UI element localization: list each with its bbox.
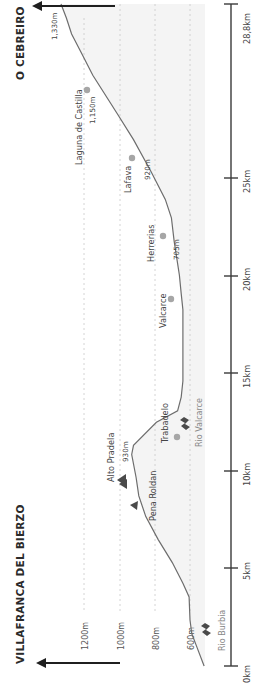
elev-label-herrerias: 705m <box>172 239 181 260</box>
elev-label-lafava: 920m <box>143 159 152 180</box>
waypoint-dot-herrerias <box>160 233 166 239</box>
waypoint-dot-trabadelo <box>174 434 180 440</box>
start-direction-arrow <box>36 658 120 668</box>
label-1000m: 1000m <box>117 622 126 650</box>
elev-label-cebreiro: 1,330m <box>50 12 59 40</box>
label-28-8km: 28,8km <box>242 13 252 44</box>
waypoint-dot-valcarce <box>168 296 174 302</box>
elevation-profile-chart: 1200m 1000m 800m 600m 0km 5km 10km 15km … <box>0 0 258 689</box>
elev-label-alto-pradela: 930m <box>121 441 130 462</box>
end-arrowhead-icon <box>32 1 42 11</box>
label-5km: 5km <box>242 562 252 580</box>
summit-marker-icon-pena-roldan <box>130 501 138 510</box>
distance-axis: 0km 5km 10km 15km 20km 25km 28,8km <box>224 4 252 683</box>
waypoint-dot-laguna-de-castilla <box>84 87 90 93</box>
elev-label-laguna-de-castilla: 1,150m <box>88 96 97 124</box>
label-800m: 800m <box>152 627 161 650</box>
label-15km: 15km <box>242 365 252 388</box>
elevation-labels: 1200m 1000m 800m 600m <box>81 622 196 650</box>
start-town-title: VILLAFRANCA DEL BIERZO <box>14 504 26 664</box>
waypoint-label-valcarce: Valcarce <box>158 294 168 329</box>
waypoint-label-pena-roldan: Pena Roldan <box>148 471 158 522</box>
label-1200m: 1200m <box>81 622 90 650</box>
label-25km: 25km <box>242 170 252 193</box>
waypoint-label-herrerias: Herrerias <box>146 224 156 262</box>
waypoint-label-rio-valcarce: Rio Valcarce <box>195 398 204 447</box>
label-20km: 20km <box>242 268 252 291</box>
waypoint-label-lafava: Lafava <box>123 166 133 193</box>
waypoint-label-alto-pradela: Alto Pradela <box>106 433 116 482</box>
waypoint-dot-lafava <box>129 155 135 161</box>
start-arrowhead-icon <box>36 658 46 668</box>
end-town-title: O CEBREIRO <box>14 6 26 80</box>
label-0km: 0km <box>242 665 252 683</box>
label-10km: 10km <box>242 463 252 486</box>
waypoint-label-trabadelo: Trabadelo <box>160 403 170 444</box>
waypoint-label-rio-burbia: Rio Burbia <box>218 610 227 651</box>
waypoint-label-laguna-de-castilla: Laguna de Castilla <box>74 89 84 165</box>
